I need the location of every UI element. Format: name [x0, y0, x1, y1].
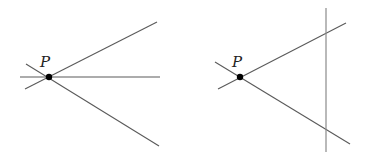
right-lower-ray [215, 62, 350, 144]
left-point-p [46, 74, 52, 80]
right-figure: P [215, 8, 350, 152]
right-point-p [237, 74, 243, 80]
diagram-canvas: P P [0, 0, 367, 156]
left-point-label: P [39, 53, 51, 71]
left-figure: P [20, 22, 160, 146]
right-point-label: P [231, 53, 243, 71]
